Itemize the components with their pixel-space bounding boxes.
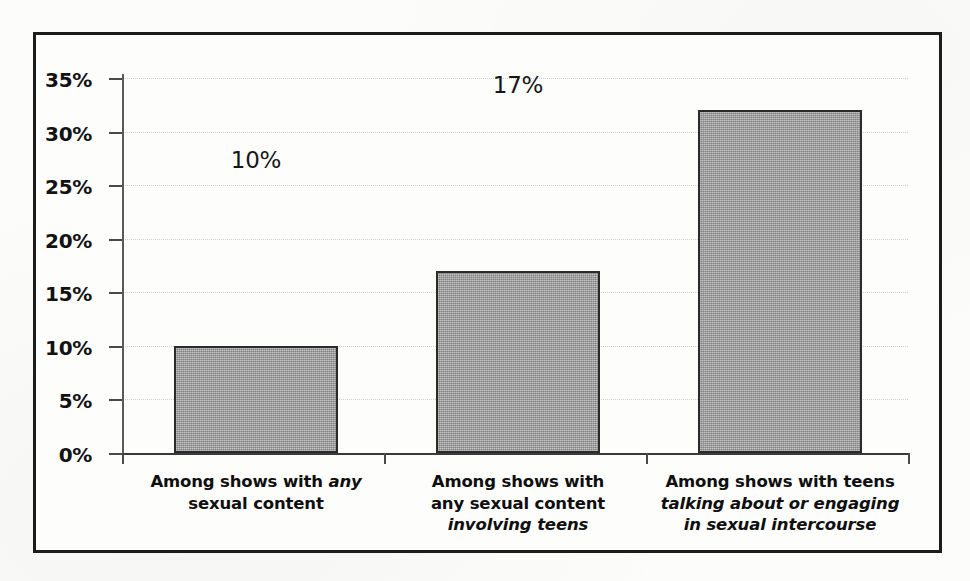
x-label-2-line1-plain: Among shows with — [432, 472, 604, 491]
chart-frame: 35% 30% 25% 20% 15% 10% 5% 0% — [33, 32, 942, 553]
bar-sexual-intercourse[interactable] — [698, 110, 862, 453]
y-tick-15: 15% — [109, 292, 122, 294]
x-label-1-line1-plain: Among shows with — [150, 472, 328, 491]
bar-any-sexual-content[interactable] — [174, 346, 338, 453]
y-axis-label-35: 35% — [45, 68, 92, 92]
x-axis-line — [122, 453, 908, 455]
x-axis-label-category-1: Among shows with any sexual content — [126, 471, 386, 514]
x-axis-label-category-2: Among shows with any sexual content invo… — [388, 471, 648, 536]
x-label-3-line1-plain: Among shows with teens — [665, 472, 894, 491]
x-label-2-line3-italic: involving teens — [448, 515, 588, 534]
y-tick-20: 20% — [109, 239, 122, 241]
x-tick-boundary-3 — [908, 453, 910, 464]
x-tick-boundary-1 — [384, 453, 386, 464]
x-tick-boundary-2 — [646, 453, 648, 464]
y-axis-label-10: 10% — [45, 336, 92, 360]
y-axis-label-20: 20% — [45, 229, 92, 253]
y-tick-30: 30% — [109, 132, 122, 134]
y-tick-25: 25% — [109, 185, 122, 187]
x-label-3-line2-italic: talking about or engaging — [661, 494, 900, 513]
plot-area: 35% 30% 25% 20% 15% 10% 5% 0% — [122, 78, 908, 453]
bar-involving-teens[interactable] — [436, 271, 600, 453]
bar-value-label-1: 10% — [231, 147, 282, 173]
x-label-3-line3-italic: in sexual intercourse — [684, 515, 877, 534]
y-axis-line — [122, 74, 124, 457]
x-tick-boundary-0 — [122, 453, 124, 464]
x-label-2-line2-plain: any sexual content — [431, 494, 605, 513]
y-tick-0: 0% — [109, 453, 122, 455]
x-axis-label-category-3: Among shows with teens talking about or … — [645, 471, 915, 536]
y-axis-label-25: 25% — [45, 175, 92, 199]
y-axis-label-5: 5% — [59, 389, 92, 413]
bar-value-label-2: 17% — [493, 72, 544, 98]
x-label-1-line2-plain: sexual content — [188, 494, 323, 513]
y-axis-label-15: 15% — [45, 282, 92, 306]
y-tick-35: 35% — [109, 78, 122, 80]
x-label-1-line1: Among shows with any — [150, 472, 361, 491]
x-label-1-line1-italic: any — [328, 472, 361, 491]
y-axis-label-30: 30% — [45, 122, 92, 146]
y-tick-5: 5% — [109, 399, 122, 401]
page-background: 35% 30% 25% 20% 15% 10% 5% 0% — [0, 0, 970, 581]
y-axis-label-0: 0% — [59, 443, 92, 467]
y-tick-10: 10% — [109, 346, 122, 348]
